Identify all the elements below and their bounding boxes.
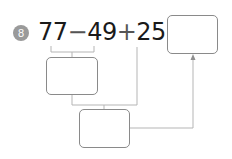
operand-49: 49 [87, 18, 117, 46]
math-expression: 77−49+25= [38, 18, 185, 46]
operand-25: 25 [136, 18, 166, 46]
bracket-first-operation [51, 46, 94, 52]
arrow-up-icon [191, 54, 196, 60]
problem-number-badge: 8 [13, 25, 29, 41]
minus-sign: − [68, 18, 88, 46]
step1-answer-box[interactable] [46, 57, 98, 95]
plus-sign: + [117, 18, 137, 46]
operand-77: 77 [38, 18, 68, 46]
connector-to-result [129, 58, 193, 128]
result-answer-box[interactable] [167, 15, 218, 54]
step2-answer-box[interactable] [79, 109, 130, 148]
